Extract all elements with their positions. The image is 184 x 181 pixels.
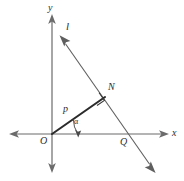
line-l-label: l — [66, 21, 69, 32]
line-l — [60, 35, 156, 173]
line-l-arrow-lower-right — [145, 162, 156, 173]
y-axis — [48, 14, 56, 173]
angle-alpha-label: α — [74, 118, 78, 126]
point-n-label: N — [108, 82, 115, 92]
line-l-arrow-upper-left — [60, 35, 71, 46]
x-axis-label: x — [172, 128, 176, 138]
segment-p-on — [52, 97, 105, 134]
x-axis — [9, 130, 169, 138]
y-axis-label: y — [48, 3, 52, 13]
point-q-label: Q — [120, 137, 127, 147]
geometry-diagram: y x l N O Q p α — [0, 0, 184, 181]
segment-p-label: p — [63, 104, 68, 114]
point-o-label: O — [40, 136, 47, 146]
diagram-canvas — [0, 0, 184, 181]
